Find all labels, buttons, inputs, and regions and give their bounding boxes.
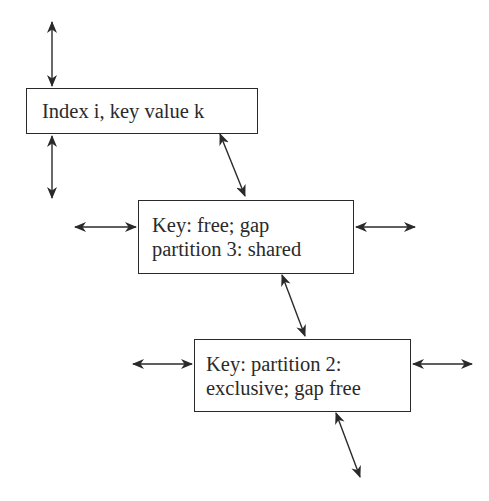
node-index-key-value: Index i, key value k — [26, 88, 258, 134]
node-label-line: exclusive; gap free — [206, 376, 410, 400]
node-key-free-gap-shared: Key: free; gap partition 3: shared — [138, 200, 354, 274]
node-label-line: partition 3: shared — [152, 237, 353, 261]
diagram-canvas: Index i, key value k Key: free; gap part… — [0, 0, 489, 501]
node-label-line: Key: partition 2: — [206, 352, 410, 376]
arrow-box3-down-icon — [336, 413, 360, 477]
node-key-exclusive-gap-free: Key: partition 2: exclusive; gap free — [194, 339, 411, 412]
node-label-line: Index i, key value k — [42, 99, 257, 123]
arrow-box2-to-box3-icon — [282, 275, 305, 336]
node-label-line: Key: free; gap — [152, 213, 353, 237]
arrow-box1-to-box2-icon — [220, 134, 245, 196]
